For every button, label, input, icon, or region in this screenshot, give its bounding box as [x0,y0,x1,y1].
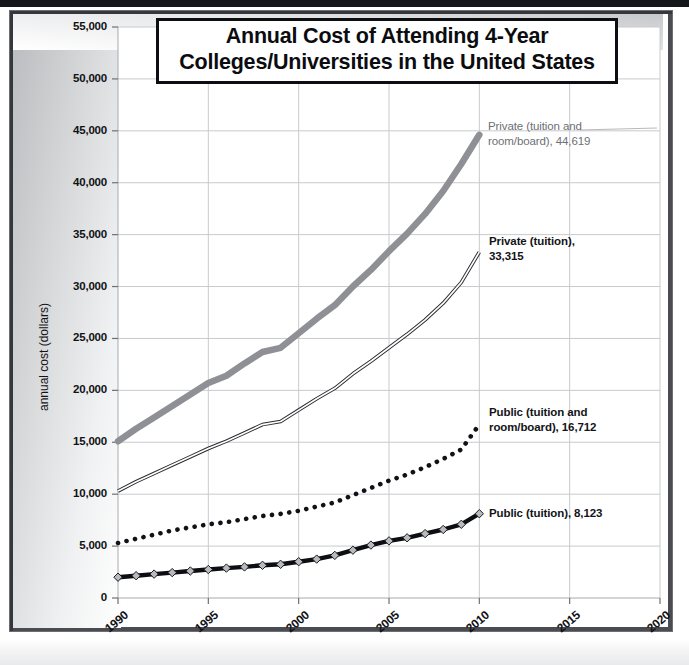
y-tick-label-15000: 15,000 [33,435,107,447]
y-tick-label-20000: 20,000 [33,383,107,395]
annot-public-tuition: Public (tuition), 8,123 [489,506,679,521]
y-tick-label-35000: 35,000 [33,228,107,240]
y-tick-label-50000: 50,000 [33,72,107,84]
annot-public-room-board: Public (tuition and room/board), 16,712 [489,405,679,435]
y-tick-label-5000: 5,000 [33,539,107,551]
chart-title-line-2: Colleges/Universities in the United Stat… [165,50,609,76]
annot-private-room-board: Private (tuition and room/board), 44,619 [488,119,673,149]
chart-title-line-1: Annual Cost of Attending 4-Year [165,24,609,50]
y-tick-label-0: 0 [33,591,107,603]
chart-title-box: Annual Cost of Attending 4-Year Colleges… [156,18,618,84]
y-tick-label-45000: 45,000 [33,124,107,136]
y-axis-label: annual cost (dollars) [37,277,51,437]
y-tick-label-10000: 10,000 [33,487,107,499]
annot-private-tuition: Private (tuition), 33,315 [489,234,674,264]
y-tick-label-30000: 30,000 [33,280,107,292]
y-tick-label-25000: 25,000 [33,331,107,343]
y-tick-label-55000: 55,000 [33,20,107,32]
scanned-page: Annual Cost of Attending 4-Year Colleges… [0,0,689,665]
y-tick-label-40000: 40,000 [33,176,107,188]
